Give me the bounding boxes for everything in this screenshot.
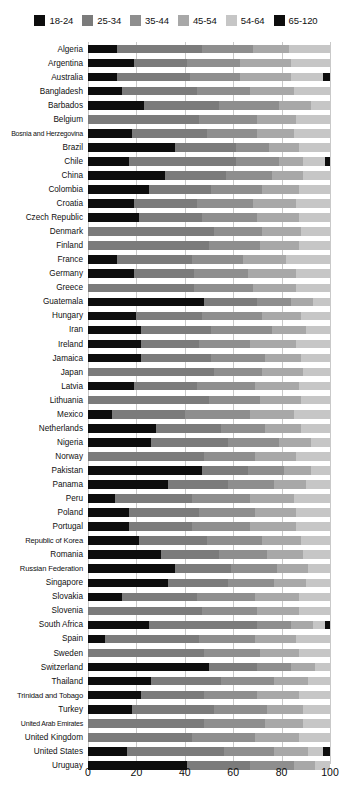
- bar-segment-18-24[interactable]: [88, 382, 134, 391]
- bar-segment-25-34[interactable]: [132, 129, 207, 138]
- bar-segment-54-64[interactable]: [299, 382, 330, 391]
- bar-segment-54-64[interactable]: [308, 677, 330, 686]
- bar-segment-35-44[interactable]: [219, 101, 280, 110]
- bar-segment-25-34[interactable]: [134, 59, 187, 68]
- bar-segment-45-54[interactable]: [291, 621, 313, 630]
- legend-entry-25-34[interactable]: 25-34: [82, 15, 121, 26]
- bar-segment-54-64[interactable]: [291, 59, 330, 68]
- bar-segment-35-44[interactable]: [214, 368, 262, 377]
- bar-segment-18-24[interactable]: [88, 424, 156, 433]
- bar-segment-54-64[interactable]: [311, 438, 330, 447]
- bar-segment-45-54[interactable]: [257, 129, 293, 138]
- bar-segment-25-34[interactable]: [175, 143, 236, 152]
- bar-segment-18-24[interactable]: [88, 564, 175, 573]
- bar-segment-25-34[interactable]: [88, 719, 204, 728]
- bar-segment-35-44[interactable]: [248, 466, 284, 475]
- bar-segment-54-64[interactable]: [301, 396, 330, 405]
- bar-segment-54-64[interactable]: [315, 663, 330, 672]
- bar-segment-35-44[interactable]: [194, 284, 252, 293]
- bar-segment-25-34[interactable]: [204, 298, 257, 307]
- bar-segment-45-54[interactable]: [255, 452, 296, 461]
- bar-segment-35-44[interactable]: [214, 227, 262, 236]
- bar-segment-35-44[interactable]: [192, 255, 243, 264]
- bar-segment-45-54[interactable]: [267, 705, 303, 714]
- bar-segment-54-64[interactable]: [313, 621, 325, 630]
- bar-segment-25-34[interactable]: [117, 255, 192, 264]
- bar-segment-18-24[interactable]: [88, 171, 165, 180]
- bar-segment-45-54[interactable]: [257, 607, 298, 616]
- bar-segment-35-44[interactable]: [197, 87, 250, 96]
- bar-segment-25-34[interactable]: [88, 452, 204, 461]
- bar-segment-18-24[interactable]: [88, 213, 139, 222]
- bar-segment-54-64[interactable]: [299, 733, 330, 742]
- bar-segment-45-54[interactable]: [243, 255, 287, 264]
- bar-segment-45-54[interactable]: [257, 691, 298, 700]
- bar-segment-54-64[interactable]: [303, 368, 330, 377]
- bar-segment-18-24[interactable]: [88, 73, 117, 82]
- bar-segment-18-24[interactable]: [88, 326, 141, 335]
- bar-segment-25-34[interactable]: [202, 466, 248, 475]
- bar-segment-25-34[interactable]: [141, 340, 199, 349]
- bar-segment-25-34[interactable]: [139, 536, 207, 545]
- bar-segment-35-44[interactable]: [199, 340, 250, 349]
- bar-segment-25-34[interactable]: [127, 747, 224, 756]
- bar-segment-54-64[interactable]: [301, 312, 330, 321]
- bar-segment-18-24[interactable]: [88, 59, 134, 68]
- bar-segment-25-34[interactable]: [141, 354, 211, 363]
- bar-segment-54-64[interactable]: [296, 340, 330, 349]
- bar-segment-25-34[interactable]: [168, 579, 229, 588]
- bar-segment-35-44[interactable]: [190, 73, 241, 82]
- bar-segment-18-24[interactable]: [88, 466, 202, 475]
- bar-segment-18-24[interactable]: [88, 691, 141, 700]
- bar-segment-45-54[interactable]: [255, 733, 299, 742]
- bar-segment-35-44[interactable]: [202, 312, 263, 321]
- bar-segment-54-64[interactable]: [303, 157, 325, 166]
- bar-segment-35-44[interactable]: [194, 269, 247, 278]
- bar-segment-18-24[interactable]: [88, 579, 168, 588]
- bar-segment-25-34[interactable]: [129, 522, 192, 531]
- bar-segment-25-34[interactable]: [88, 649, 204, 658]
- bar-segment-35-44[interactable]: [211, 354, 264, 363]
- bar-segment-35-44[interactable]: [228, 438, 279, 447]
- bar-segment-35-44[interactable]: [231, 564, 277, 573]
- bar-segment-35-44[interactable]: [224, 747, 275, 756]
- bar-segment-54-64[interactable]: [296, 115, 330, 124]
- bar-segment-35-44[interactable]: [207, 129, 258, 138]
- bar-segment-25-34[interactable]: [141, 326, 211, 335]
- bar-segment-54-64[interactable]: [311, 466, 330, 475]
- bar-segment-25-34[interactable]: [88, 607, 202, 616]
- bar-segment-18-24[interactable]: [88, 45, 117, 54]
- bar-segment-18-24[interactable]: [88, 747, 127, 756]
- bar-segment-45-54[interactable]: [269, 143, 298, 152]
- bar-segment-25-34[interactable]: [105, 635, 199, 644]
- bar-segment-35-44[interactable]: [197, 382, 255, 391]
- bar-segment-54-64[interactable]: [303, 705, 330, 714]
- bar-segment-35-44[interactable]: [211, 326, 272, 335]
- bar-segment-18-24[interactable]: [88, 663, 209, 672]
- bar-segment-18-24[interactable]: [88, 185, 149, 194]
- bar-segment-35-44[interactable]: [228, 579, 274, 588]
- bar-segment-45-54[interactable]: [248, 269, 296, 278]
- bar-segment-25-34[interactable]: [168, 480, 229, 489]
- bar-segment-54-64[interactable]: [301, 424, 330, 433]
- bar-segment-54-64[interactable]: [299, 241, 330, 250]
- bar-segment-45-54[interactable]: [262, 536, 301, 545]
- bar-segment-25-34[interactable]: [139, 213, 202, 222]
- bar-segment-35-44[interactable]: [204, 649, 260, 658]
- bar-segment-35-44[interactable]: [228, 480, 274, 489]
- bar-segment-18-24[interactable]: [88, 635, 105, 644]
- bar-segment-35-44[interactable]: [226, 171, 272, 180]
- bar-segment-35-44[interactable]: [204, 452, 255, 461]
- bar-segment-45-54[interactable]: [262, 227, 301, 236]
- bar-segment-25-34[interactable]: [149, 185, 212, 194]
- bar-segment-54-64[interactable]: [303, 550, 330, 559]
- bar-segment-45-54[interactable]: [265, 354, 301, 363]
- bar-segment-45-54[interactable]: [272, 171, 303, 180]
- bar-segment-25-34[interactable]: [88, 368, 214, 377]
- bar-segment-45-54[interactable]: [250, 87, 294, 96]
- bar-segment-25-34[interactable]: [134, 269, 195, 278]
- bar-segment-35-44[interactable]: [199, 508, 255, 517]
- bar-segment-35-44[interactable]: [204, 691, 257, 700]
- bar-segment-45-54[interactable]: [260, 241, 299, 250]
- bar-segment-45-54[interactable]: [272, 326, 306, 335]
